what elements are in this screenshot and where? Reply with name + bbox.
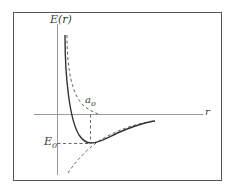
equilibrium-distance-label: ao xyxy=(85,95,96,105)
y-axis-label: E(r) xyxy=(50,14,72,25)
diagram-frame xyxy=(14,13,222,181)
minimum-energy-base: E xyxy=(44,135,52,148)
minimum-energy-label: E0 xyxy=(44,136,57,147)
minimum-energy-sub: 0 xyxy=(52,141,57,150)
total-potential-curve xyxy=(65,35,155,143)
attractive-term-curve xyxy=(68,121,155,173)
equilibrium-distance-sub: o xyxy=(91,99,96,108)
energy-diagram: E(r) r ao E0 xyxy=(0,0,243,189)
diagram-canvas xyxy=(0,0,243,189)
x-axis-label: r xyxy=(205,107,210,117)
